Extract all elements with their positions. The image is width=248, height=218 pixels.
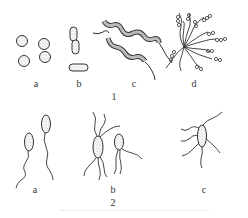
panel-1c-spirillum [93, 21, 172, 80]
label-1c: c [132, 79, 136, 89]
label-2b: b [111, 185, 116, 195]
panel-2c-peritrichous [181, 112, 222, 168]
faded-caption-line [60, 210, 210, 213]
panel-1d-filament-cluster [166, 13, 227, 71]
label-1b: b [77, 79, 82, 89]
panel-2b-lophotrichous [84, 112, 142, 180]
group-2-label: 2 [111, 198, 116, 208]
panel-1a-cocci [17, 36, 51, 67]
label-1a: a [34, 79, 38, 89]
label-2a: a [33, 185, 37, 195]
panel-1b-rods [69, 27, 88, 71]
bacteria-morphology-figure: a b c d 1 a b c 2 [0, 0, 248, 218]
label-2c: c [202, 185, 206, 195]
panel-2a-monotrichous [16, 115, 53, 188]
group-1-label: 1 [112, 92, 117, 102]
label-1d: d [192, 79, 197, 89]
